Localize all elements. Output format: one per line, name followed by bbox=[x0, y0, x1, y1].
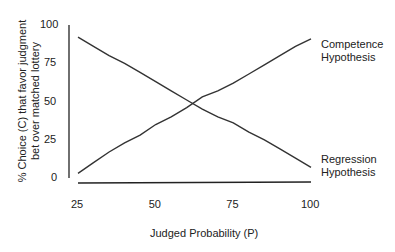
legend-competence-line2: Hypothesis bbox=[321, 51, 383, 64]
x-axis-label: Judged Probability (P) bbox=[150, 227, 258, 240]
competence-line bbox=[78, 39, 311, 174]
x-tick-100: 100 bbox=[301, 198, 319, 210]
legend-regression: Regression Hypothesis bbox=[321, 153, 377, 179]
x-tick-75: 75 bbox=[226, 198, 238, 210]
legend-competence: Competence Hypothesis bbox=[321, 38, 383, 64]
y-tick-0: 0 bbox=[51, 171, 57, 183]
legend-regression-line2: Hypothesis bbox=[321, 166, 377, 179]
x-axis bbox=[78, 182, 311, 183]
x-tick-25: 25 bbox=[71, 198, 83, 210]
y-tick-25: 25 bbox=[44, 133, 56, 145]
y-tick-100: 100 bbox=[40, 18, 58, 30]
y-tick-50: 50 bbox=[44, 95, 56, 107]
y-tick-75: 75 bbox=[44, 56, 56, 68]
x-tick-50: 50 bbox=[149, 198, 161, 210]
y-axis-label: % Choice (C) that favor judgment bet ove… bbox=[16, 16, 42, 186]
series-lines bbox=[78, 37, 311, 173]
legend-regression-line1: Regression bbox=[321, 153, 377, 166]
legend-competence-line1: Competence bbox=[321, 38, 383, 51]
